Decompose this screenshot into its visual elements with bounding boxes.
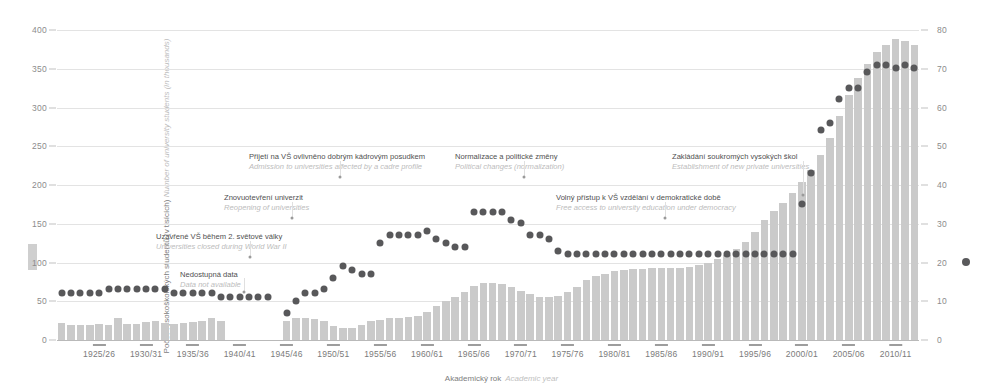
bar [114,318,122,340]
annotation-label-cz: Volný přístup k VŠ vzdělání v demokratic… [556,193,736,203]
data-point [246,294,253,301]
data-point [367,270,374,277]
data-point [236,294,243,301]
data-point [911,65,918,72]
annotation-label-en: Free access to university education unde… [556,203,736,213]
gridline-250 [57,146,919,147]
x-tick-label: 1985/86 [645,349,677,359]
bar [536,297,544,340]
x-tick-dash [186,344,199,346]
x-tick-dash [514,344,527,346]
x-tick-dash [233,344,246,346]
data-point [283,309,290,316]
bar [498,284,506,340]
y-tick-dash-left-400 [49,30,56,31]
bar [733,249,741,340]
bar [508,287,516,340]
bar [526,294,534,340]
data-point [452,243,459,250]
data-point [143,286,150,293]
annotation-marker-dot [339,176,342,179]
bar [302,318,310,340]
x-tick-dash [749,344,762,346]
bar [686,267,694,340]
x-tick: 1955/56 [364,340,396,359]
data-point [817,127,824,134]
data-point [480,208,487,215]
data-point [208,290,215,297]
data-point [414,232,421,239]
x-tick-label: 1970/71 [505,349,537,359]
bar [836,116,844,340]
data-point [302,290,309,297]
x-tick-label: 1935/36 [177,349,209,359]
data-point [442,239,449,246]
data-point [733,251,740,258]
data-point [705,251,712,258]
bar [358,325,366,341]
legend-swatch-universities-dot [962,258,970,266]
x-tick-label: 2000/01 [786,349,818,359]
gridline-400 [57,30,919,31]
x-tick-dash [561,344,574,346]
bar [161,323,169,340]
data-point [714,251,721,258]
data-point [873,61,880,68]
x-tick: 1950/51 [317,340,349,359]
y-tick-left-0: 0 [42,335,47,345]
data-point [114,286,121,293]
bar [330,326,338,340]
annotation-znovuotevreni: Znovuotevření univerzitReopening of univ… [224,193,309,212]
data-point [255,294,262,301]
y-tick-dash-left-300 [49,107,56,108]
y-tick-right-30: 30 [937,219,947,229]
annotation-marker-dot [243,291,246,294]
data-point [677,251,684,258]
data-point [855,84,862,91]
data-point [686,251,693,258]
x-tick: 1960/61 [411,340,443,359]
bar [470,286,478,340]
y-tick-right-20: 20 [937,258,947,268]
bar [873,52,881,340]
bar [864,64,872,340]
data-point [826,119,833,126]
bar [198,321,206,340]
x-tick-dash [374,344,387,346]
y-tick-dash-left-250 [49,146,56,147]
bar [489,283,497,340]
y-tick-dash-right-80 [921,30,928,31]
y-tick-right-0: 0 [937,335,942,345]
data-point [377,239,384,246]
data-point [845,84,852,91]
bar [611,271,619,340]
bar [339,328,347,340]
bar [405,317,413,340]
x-tick-label: 2010/11 [880,349,912,359]
x-tick-label: 1950/51 [317,349,349,359]
data-point [901,61,908,68]
data-point [536,232,543,239]
y-tick-right-50: 50 [937,141,947,151]
bar [480,283,488,340]
data-point [667,251,674,258]
x-tick-label: 1965/66 [458,349,490,359]
x-tick: 2010/11 [880,340,912,359]
x-tick: 1965/66 [458,340,490,359]
bar [704,263,712,341]
bar [442,301,450,340]
annotation-label-cz: Zakládání soukromých vysokých škol [672,152,809,162]
data-point [68,290,75,297]
annotation-connector [803,161,804,195]
bar [751,232,759,341]
bar [320,321,328,340]
data-point [892,65,899,72]
y-tick-dash-right-0 [921,340,928,341]
data-point [545,235,552,242]
data-point [227,294,234,301]
data-point [386,232,393,239]
bar [770,211,778,340]
data-point [96,290,103,297]
data-point [780,251,787,258]
y-tick-dash-right-50 [921,146,928,147]
